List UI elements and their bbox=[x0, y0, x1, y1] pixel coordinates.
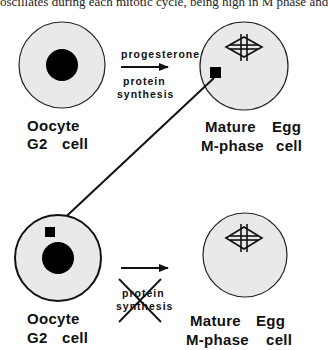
cell-label: cell bbox=[266, 331, 292, 348]
oocyte-label: Oocyte bbox=[27, 310, 80, 327]
m-phase-label: M-phase bbox=[186, 331, 249, 348]
egg-label: Egg bbox=[256, 312, 285, 329]
cell-label: cell bbox=[62, 329, 88, 346]
mature-label: Mature bbox=[190, 312, 241, 329]
g2-label: G2 bbox=[27, 329, 48, 346]
